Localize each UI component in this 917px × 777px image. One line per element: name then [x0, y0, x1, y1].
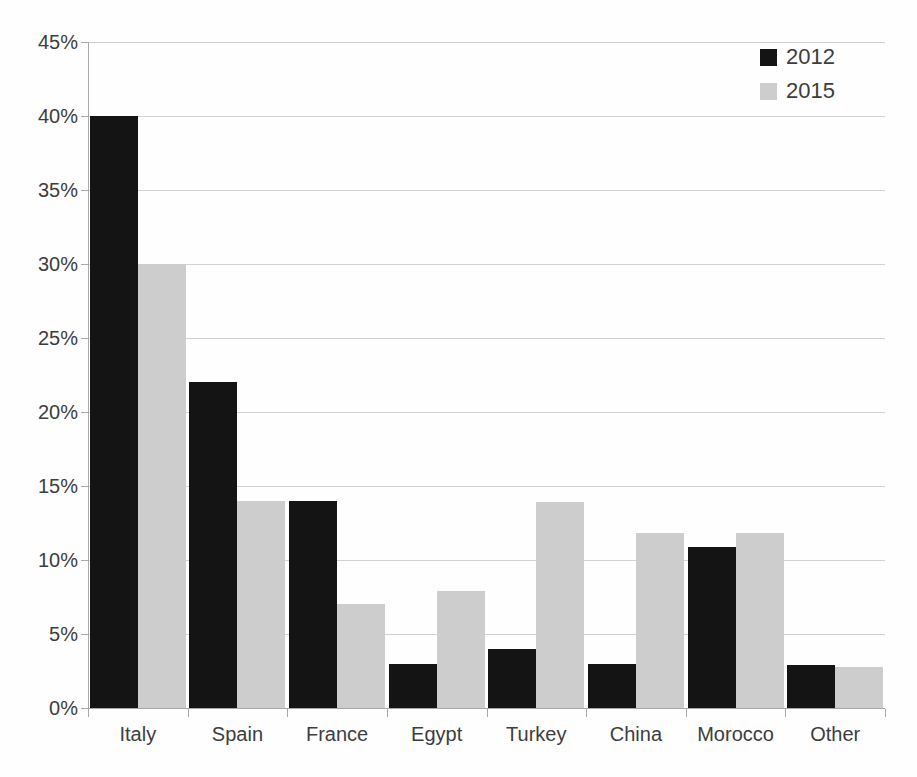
- x-axis-tick-mark: [387, 709, 388, 717]
- bar-other-2012: [787, 665, 835, 708]
- x-axis-tick-mark: [686, 709, 687, 717]
- x-axis-label-other: Other: [785, 722, 885, 746]
- bar-china-2012: [588, 664, 636, 708]
- x-axis-label-morocco: Morocco: [686, 722, 786, 746]
- legend-swatch-2012: [760, 49, 777, 66]
- bar-turkey-2015: [536, 502, 584, 708]
- y-axis-tick-label: 40%: [6, 106, 78, 126]
- y-axis-tick-mark: [81, 708, 88, 709]
- bar-group: [588, 42, 684, 708]
- bar-france-2012: [289, 501, 337, 708]
- x-axis-tick-mark: [287, 709, 288, 717]
- y-axis-tick-label: 35%: [6, 180, 78, 200]
- bar-chart: 0%5%10%15%20%25%30%35%40%45% ItalySpainF…: [0, 0, 917, 777]
- bar-turkey-2012: [488, 649, 536, 708]
- bar-egypt-2012: [389, 664, 437, 708]
- x-axis-label-turkey: Turkey: [487, 722, 587, 746]
- y-axis-tick-mark: [81, 634, 88, 635]
- y-axis-tick-mark: [81, 338, 88, 339]
- bar-group: [787, 42, 883, 708]
- y-axis-tick-mark: [81, 560, 88, 561]
- bar-group: [389, 42, 485, 708]
- y-axis-tick-mark: [81, 190, 88, 191]
- bar-group: [488, 42, 584, 708]
- bar-egypt-2015: [437, 591, 485, 708]
- bar-france-2015: [337, 604, 385, 708]
- legend-swatch-2015: [760, 83, 777, 100]
- y-axis-tick-label: 10%: [6, 550, 78, 570]
- legend-entry-2015[interactable]: 2015: [760, 74, 880, 108]
- x-axis-tick-mark: [785, 709, 786, 717]
- legend-label-2012: 2012: [786, 46, 835, 68]
- y-axis-tick-mark: [81, 42, 88, 43]
- x-axis-tick-mark: [586, 709, 587, 717]
- y-axis-tick-label: 30%: [6, 254, 78, 274]
- bar-morocco-2012: [688, 547, 736, 708]
- x-axis-label-china: China: [586, 722, 686, 746]
- x-axis-label-france: France: [287, 722, 387, 746]
- bar-group: [289, 42, 385, 708]
- y-axis-tick-label: 5%: [6, 624, 78, 644]
- y-axis-tick-label: 0%: [6, 698, 78, 718]
- x-axis-label-italy: Italy: [88, 722, 188, 746]
- x-axis-label-spain: Spain: [188, 722, 288, 746]
- y-axis-tick-label: 45%: [6, 32, 78, 52]
- y-axis-tick-label: 20%: [6, 402, 78, 422]
- legend-label-2015: 2015: [786, 80, 835, 102]
- y-axis-tick-labels: 0%5%10%15%20%25%30%35%40%45%: [0, 0, 78, 777]
- x-axis-tick-mark: [188, 709, 189, 717]
- y-axis-tick-mark: [81, 116, 88, 117]
- bar-spain-2012: [189, 382, 237, 708]
- y-axis-tick-mark: [81, 264, 88, 265]
- bar-group: [688, 42, 784, 708]
- bar-morocco-2015: [736, 533, 784, 708]
- x-axis-tick-mark: [885, 709, 886, 717]
- bar-other-2015: [835, 667, 883, 708]
- plot-area: [88, 42, 885, 708]
- bar-spain-2015: [237, 501, 285, 708]
- x-axis-label-egypt: Egypt: [387, 722, 487, 746]
- y-axis-tick-label: 15%: [6, 476, 78, 496]
- bar-italy-2015: [138, 264, 186, 708]
- x-axis-tick-mark: [88, 709, 89, 717]
- x-axis-tick-mark: [487, 709, 488, 717]
- bar-group: [90, 42, 186, 708]
- bar-italy-2012: [90, 116, 138, 708]
- legend-entry-2012[interactable]: 2012: [760, 40, 880, 74]
- y-axis-tick-mark: [81, 486, 88, 487]
- y-axis-tick-label: 25%: [6, 328, 78, 348]
- bar-china-2015: [636, 533, 684, 708]
- bar-group: [189, 42, 285, 708]
- y-axis-tick-mark: [81, 412, 88, 413]
- chart-legend: 20122015: [760, 40, 880, 108]
